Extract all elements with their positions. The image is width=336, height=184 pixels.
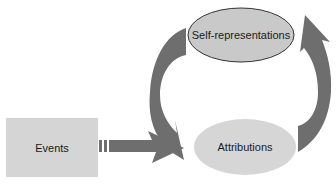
events-node: Events xyxy=(6,118,98,177)
attributions-label: Attributions xyxy=(217,141,273,153)
attributions-to-self-curved-arrow xyxy=(298,15,331,152)
attributions-node: Attributions xyxy=(194,119,296,175)
self-representations-node: Self-representations xyxy=(188,8,294,62)
arrow-stripe xyxy=(104,140,107,152)
arrow-stripe xyxy=(99,140,102,152)
diagram-canvas: Events Self-representations Attributions xyxy=(0,0,336,184)
events-label: Events xyxy=(35,142,69,154)
self-representations-label: Self-representations xyxy=(192,29,291,41)
